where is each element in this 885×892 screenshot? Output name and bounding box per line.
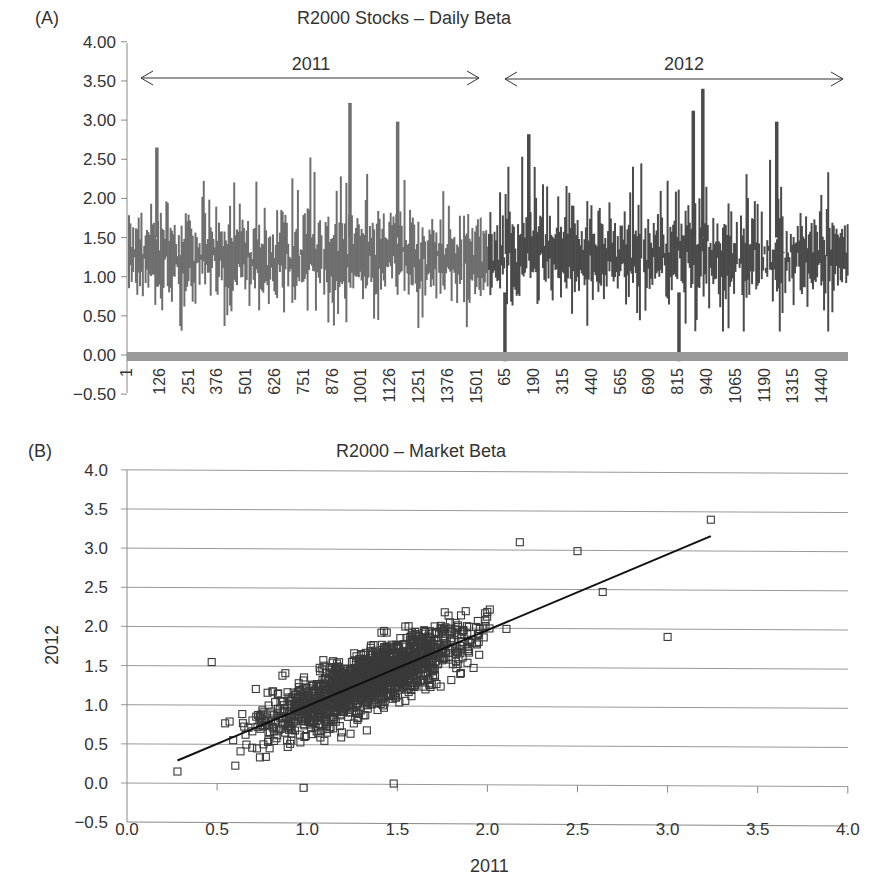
x-tick-label: 376	[208, 368, 225, 395]
x-tick-label: 751	[295, 368, 312, 395]
chart-b-market-beta: 4.03.53.02.52.01.51.00.50.0−0.5 0.00.51.…	[74, 461, 859, 839]
year-2012-label: 2012	[664, 54, 704, 74]
x-tick-label: 1190	[756, 368, 773, 403]
y-tick-label: 1.5	[84, 657, 108, 676]
x-tick-label: 251	[180, 368, 197, 395]
y-tick-label: 0.0	[84, 774, 108, 793]
y-tick-label: 1.0	[84, 696, 108, 715]
x-tick-label: 1001	[352, 368, 369, 404]
chart-b-x-axis: 0.00.51.01.52.02.53.03.54.0	[115, 783, 859, 839]
y-tick-label: 1.00	[83, 268, 116, 287]
year-2012-span-arrow: 2012	[505, 54, 843, 86]
chart-a-series-2012	[488, 89, 849, 361]
y-tick-label: 3.00	[83, 111, 116, 130]
x-tick-label: 1	[118, 368, 135, 377]
chart-a-x-axis: 1126251376501626751876100111261251137615…	[118, 368, 830, 404]
chart-a-y-axis: 4.003.503.002.502.001.501.000.500.00−0.5…	[73, 33, 127, 404]
y-tick-label: −0.50	[73, 385, 116, 404]
x-tick-label: 501	[237, 368, 254, 395]
x-tick-label: 0.0	[115, 820, 139, 839]
x-tick-label: 2.5	[566, 820, 590, 839]
x-tick-label: 3.0	[656, 820, 680, 839]
chart-b-trendline	[177, 536, 710, 760]
year-2011-span-arrow: 2011	[141, 54, 479, 85]
x-tick-label: 0.5	[205, 820, 229, 839]
y-tick-label: 0.5	[84, 735, 108, 754]
year-2011-label: 2011	[292, 54, 331, 74]
chart-a-zero-band	[127, 352, 848, 361]
charts-canvas: 4.003.503.002.502.001.501.000.500.00−0.5…	[0, 0, 885, 892]
y-tick-label: 4.0	[84, 461, 108, 480]
x-tick-label: 876	[324, 368, 341, 395]
y-tick-label: 3.5	[84, 500, 108, 519]
y-tick-label: 3.0	[84, 539, 108, 558]
y-tick-label: 0.00	[83, 346, 116, 365]
x-tick-label: 126	[151, 368, 168, 395]
chart-a-series-2011	[128, 103, 489, 331]
x-tick-label: 190	[525, 368, 542, 395]
y-tick-label: 2.50	[83, 150, 116, 169]
x-tick-label: 4.0	[836, 820, 860, 839]
x-tick-label: 2.0	[476, 820, 500, 839]
x-tick-label: 440	[583, 368, 600, 395]
x-tick-label: 626	[266, 368, 283, 395]
x-tick-label: 1440	[813, 368, 830, 404]
x-tick-label: 1.5	[385, 820, 409, 839]
x-tick-label: 815	[669, 368, 686, 395]
x-tick-label: 1126	[381, 368, 398, 403]
chart-a-daily-beta: 4.003.503.002.502.001.501.000.500.00−0.5…	[73, 33, 849, 404]
x-tick-label: 1251	[410, 368, 427, 404]
chart-b-scatter-points	[174, 516, 714, 791]
y-tick-label: 3.50	[83, 72, 116, 91]
x-tick-label: 65	[496, 368, 513, 386]
y-tick-label: 1.50	[83, 229, 116, 248]
x-tick-label: 940	[698, 368, 715, 395]
x-tick-label: 1065	[727, 368, 744, 404]
x-tick-label: 690	[640, 368, 657, 395]
x-tick-label: 1315	[784, 368, 801, 404]
x-tick-label: 1501	[468, 368, 485, 404]
x-tick-label: 315	[554, 368, 571, 395]
x-tick-label: 3.5	[746, 820, 770, 839]
x-tick-label: 1376	[439, 368, 456, 404]
x-tick-label: 1.0	[295, 820, 319, 839]
y-tick-label: 4.00	[83, 33, 116, 52]
x-tick-label: 565	[612, 368, 629, 395]
chart-b-y-axis: 4.03.53.02.52.01.51.00.50.0−0.5	[74, 461, 108, 832]
y-tick-label: 2.0	[84, 617, 108, 636]
y-tick-label: 0.50	[83, 307, 116, 326]
y-tick-label: −0.5	[74, 813, 108, 832]
y-tick-label: 2.5	[84, 578, 108, 597]
y-tick-label: 2.00	[83, 189, 116, 208]
